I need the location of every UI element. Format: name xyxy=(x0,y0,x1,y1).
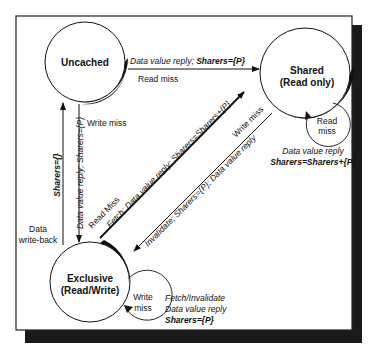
state-sublabel-exclusive: (Read/Write) xyxy=(61,285,120,296)
label-uncached-to-exclusive-trigger: Write miss xyxy=(87,118,127,128)
label-exclusive-to-uncached-action: Sharers={} xyxy=(52,153,62,197)
label-uncached-to-exclusive-action: Data value reply; Sharers={P} xyxy=(75,117,85,229)
frame-shadow-bottom xyxy=(25,330,362,343)
label-shared-self-action: Data value reply xyxy=(282,146,344,156)
label-exclusive-self-action-bold: Sharers={P} xyxy=(165,315,215,325)
label-exclusive-self-action-2: Data value reply xyxy=(165,304,227,314)
directory-protocol-diagram: Uncached Shared (Read only) Exclusive (R… xyxy=(0,0,373,353)
label-shared-self-action-bold: Sharers=Sharers+{P} xyxy=(270,157,356,167)
label-uncached-to-shared-trigger: Read miss xyxy=(138,74,178,84)
state-sublabel-shared: (Read only) xyxy=(280,77,334,88)
label-exclusive-self-trigger-2: miss xyxy=(134,303,151,313)
state-label-shared: Shared xyxy=(290,65,324,76)
label-uncached-to-shared-action: Data value reply; Sharers={P} xyxy=(130,56,246,66)
state-label-exclusive: Exclusive xyxy=(67,273,114,284)
label-exclusive-self-action-1: Fetch/Invalidate xyxy=(165,293,225,303)
state-label-uncached: Uncached xyxy=(61,57,109,68)
label-shared-self-trigger-2: miss xyxy=(318,126,335,136)
label-exclusive-self-trigger-1: Write xyxy=(133,292,153,302)
label-data-writeback-1: Data xyxy=(29,224,47,234)
label-data-writeback-2: write-back xyxy=(18,235,58,245)
label-shared-self-trigger-1: Read xyxy=(317,116,338,126)
